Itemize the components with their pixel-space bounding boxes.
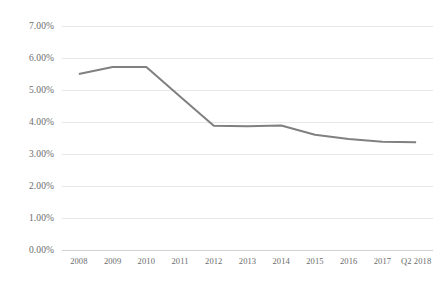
- x-tick-label: 2016: [340, 256, 357, 266]
- x-tick-label: 2008: [70, 256, 87, 266]
- x-tick-label: 2013: [239, 256, 256, 266]
- x-tick-label: 2009: [104, 256, 121, 266]
- line-chart: 7.00%6.00%5.00%4.00%3.00%2.00%1.00%0.00%…: [0, 0, 441, 284]
- x-tick-label: 2014: [273, 256, 290, 266]
- x-tick-label: 2011: [171, 256, 188, 266]
- x-axis-tick-labels: 2008200920102011201220132014201520162017…: [0, 0, 441, 284]
- x-tick-label: 2010: [138, 256, 155, 266]
- x-tick-label: 2012: [205, 256, 222, 266]
- x-tick-label: Q2 2018: [401, 256, 431, 266]
- x-tick-label: 2017: [374, 256, 391, 266]
- x-tick-label: 2015: [306, 256, 323, 266]
